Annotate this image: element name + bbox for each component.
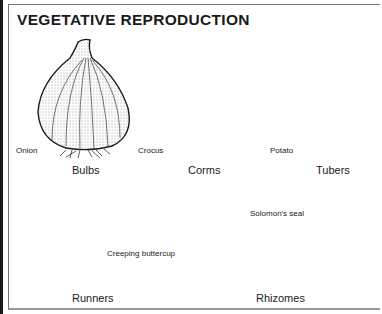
label-bulbs: Bulbs <box>72 164 100 176</box>
label-corms: Corms <box>188 164 220 176</box>
label-tubers: Tubers <box>316 164 350 176</box>
onion-illustration <box>38 39 129 158</box>
label-crocus: Crocus <box>138 146 163 155</box>
label-solomons-seal: Solomon's seal <box>250 209 304 218</box>
illustrations <box>0 0 382 314</box>
label-creeping-buttercup: Creeping buttercup <box>107 249 175 258</box>
label-rhizomes: Rhizomes <box>256 292 305 304</box>
label-onion: Onion <box>16 146 37 155</box>
label-runners: Runners <box>72 292 114 304</box>
label-potato: Potato <box>270 146 293 155</box>
